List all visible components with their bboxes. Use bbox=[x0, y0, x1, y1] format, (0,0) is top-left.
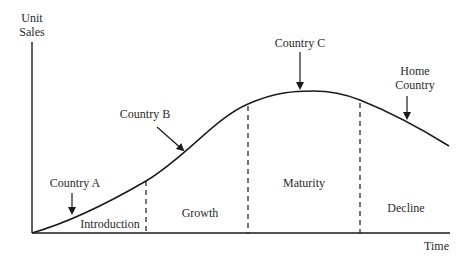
stage-dividers bbox=[146, 103, 360, 233]
country-b-label: Country B bbox=[120, 107, 170, 121]
stage-label-decline: Decline bbox=[387, 201, 424, 215]
stage-label-maturity: Maturity bbox=[283, 176, 325, 190]
country-a-marker: Country A bbox=[50, 176, 101, 213]
country-b-marker: Country B bbox=[120, 107, 183, 150]
home-country-label-line1: Home bbox=[400, 64, 429, 78]
stage-label-introduction: Introduction bbox=[80, 217, 139, 231]
product-life-cycle-diagram: Unit Sales Time Introduction Growth Matu… bbox=[0, 0, 472, 264]
y-axis-label-line2: Sales bbox=[19, 25, 45, 39]
country-c-label: Country C bbox=[275, 36, 325, 50]
country-b-arrow-icon bbox=[157, 127, 183, 150]
stage-label-growth: Growth bbox=[182, 206, 219, 220]
y-axis-label-line1: Unit bbox=[21, 11, 43, 25]
home-country-label-line2: Country bbox=[395, 78, 434, 92]
stage-labels: Introduction Growth Maturity Decline bbox=[80, 176, 424, 231]
country-a-label: Country A bbox=[50, 176, 101, 190]
home-country-marker: Home Country bbox=[395, 64, 434, 118]
country-c-marker: Country C bbox=[275, 36, 325, 88]
x-axis-label: Time bbox=[424, 239, 449, 253]
